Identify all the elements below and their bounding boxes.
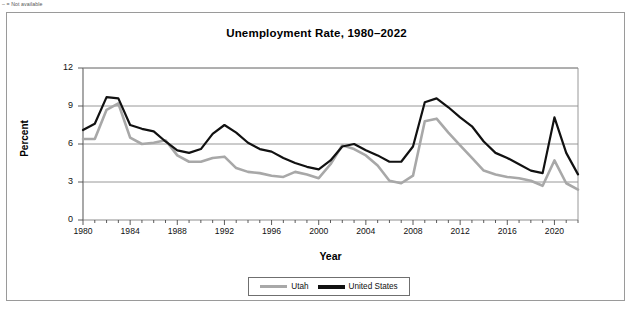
- y-tick-label: 6: [43, 138, 73, 148]
- y-tick-label: 12: [43, 62, 73, 72]
- x-tick-label: 2020: [534, 226, 574, 236]
- x-tick-label: 2008: [393, 226, 433, 236]
- x-tick-label: 1980: [63, 226, 103, 236]
- legend-item-united-states: United States: [318, 282, 398, 291]
- x-tick-label: 1988: [157, 226, 197, 236]
- chart-page: – = Not available Unemployment Rate, 198…: [0, 0, 633, 314]
- chart-legend: Utah United States: [248, 277, 410, 296]
- legend-item-utah: Utah: [260, 282, 308, 291]
- x-tick-label: 1992: [204, 226, 244, 236]
- x-tick-label: 1996: [252, 226, 292, 236]
- x-tick-label: 2000: [299, 226, 339, 236]
- x-axis-label: Year: [83, 250, 578, 262]
- plot-area: [0, 0, 633, 314]
- x-tick-label: 1984: [110, 226, 150, 236]
- legend-label-united-states: United States: [349, 282, 398, 291]
- line-chart-svg: [0, 0, 633, 314]
- legend-swatch-utah-icon: [260, 285, 287, 288]
- y-tick-label: 9: [43, 100, 73, 110]
- legend-swatch-united-states-icon: [318, 285, 345, 289]
- legend-label-utah: Utah: [291, 282, 308, 291]
- x-tick-label: 2012: [440, 226, 480, 236]
- x-tick-label: 2004: [346, 226, 386, 236]
- y-tick-label: 0: [43, 214, 73, 224]
- y-tick-label: 3: [43, 176, 73, 186]
- y-axis-label: Percent: [19, 99, 30, 179]
- x-tick-label: 2016: [487, 226, 527, 236]
